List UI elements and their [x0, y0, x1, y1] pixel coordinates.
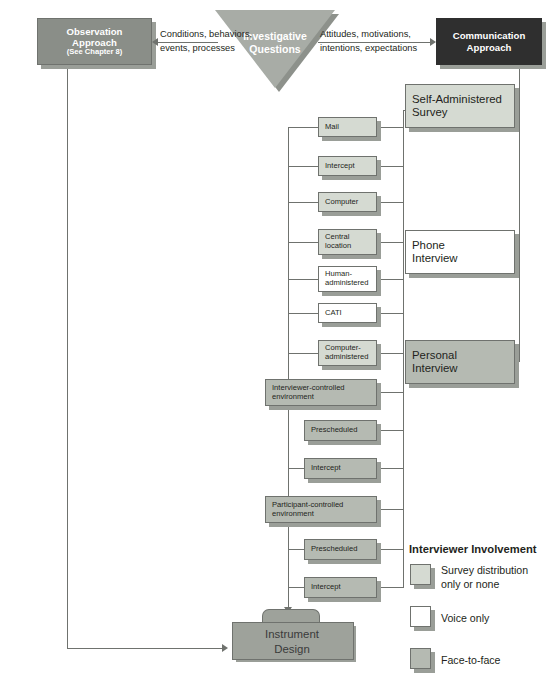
communication-approach-box[interactable]: Communication Approach	[436, 18, 542, 65]
legend-label-line1: Voice only	[441, 612, 489, 624]
communication-approach-line2: Approach	[431, 42, 547, 53]
method-box-cati[interactable]: CATI	[318, 303, 377, 323]
bus-personal-interview	[403, 352, 404, 588]
method-connector-left	[288, 242, 318, 243]
legend: Interviewer Involvement Survey distribut…	[409, 543, 554, 673]
observation-approach-box[interactable]: Observation Approach (See Chapter 8)	[37, 18, 152, 65]
method-label: Intercept	[305, 464, 376, 473]
method-label: Participant-controlled environment	[266, 501, 376, 518]
legend-label-survey-distribution: Survey distribution only or none	[441, 563, 551, 592]
observation-approach-line1: Observation	[32, 26, 157, 37]
method-box-intercept-3[interactable]: Intercept	[304, 577, 377, 598]
category-line2: Survey	[406, 106, 526, 119]
legend-label-face-to-face: Face-to-face	[441, 653, 551, 667]
right-edge-label-line1: Attitudes, motivations,	[320, 29, 411, 39]
method-label: Mail	[319, 123, 376, 132]
legend-label-line2: only or none	[441, 578, 499, 590]
communication-approach-line1: Communication	[431, 30, 547, 41]
category-box-phone-interview[interactable]: Phone Interview	[405, 230, 515, 274]
legend-label-line1: Survey distribution	[441, 564, 528, 576]
legend-swatch-survey-distribution	[410, 564, 431, 585]
method-connector-left	[288, 353, 318, 354]
method-label: Human-administered	[319, 270, 376, 287]
method-connector-left	[288, 468, 304, 469]
category-line2: Interview	[406, 362, 526, 375]
right-edge-label-line2: intentions, expectations	[320, 43, 417, 53]
method-box-mail[interactable]: Mail	[318, 117, 377, 137]
method-box-computer[interactable]: Computer	[318, 192, 377, 212]
method-connector-left	[288, 279, 318, 280]
method-box-intercept-2[interactable]: Intercept	[304, 458, 377, 479]
legend-swatch-face-to-face	[410, 648, 431, 669]
method-label: Intercept	[305, 583, 376, 592]
method-box-computer-administered[interactable]: Computer-administered	[318, 340, 377, 366]
observation-approach-line3: (See Chapter 8)	[32, 48, 157, 57]
legend-title: Interviewer Involvement	[409, 543, 536, 555]
method-connector-left	[288, 313, 318, 314]
method-box-intercept-1[interactable]: Intercept	[318, 156, 377, 176]
method-box-participant-controlled[interactable]: Participant-controlled environment	[265, 496, 377, 523]
method-box-human-administered[interactable]: Human-administered	[318, 266, 377, 292]
method-label: Central location	[319, 233, 376, 250]
method-connector-left	[288, 202, 318, 203]
method-label: Interviewer-controlled environment	[266, 384, 376, 401]
method-connector-left	[288, 166, 318, 167]
method-label: Computer	[319, 198, 376, 207]
method-box-prescheduled-2[interactable]: Prescheduled	[304, 539, 377, 560]
method-box-prescheduled-1[interactable]: Prescheduled	[304, 420, 377, 441]
legend-swatch-voice-only	[410, 606, 431, 627]
method-connector-left	[288, 127, 318, 128]
bus-phone-interview	[403, 242, 404, 364]
category-box-self-administered-survey[interactable]: Self-Administered Survey	[405, 84, 515, 128]
method-label: Computer-administered	[319, 344, 376, 361]
right-edge-label: Attitudes, motivations, intentions, expe…	[320, 27, 445, 56]
category-line2: Interview	[406, 252, 526, 265]
method-label: CATI	[319, 309, 376, 318]
method-connector-left	[288, 549, 304, 550]
method-connector-left	[288, 587, 304, 588]
category-box-personal-interview[interactable]: Personal Interview	[405, 340, 515, 384]
instrument-design-line1: Instrument	[265, 628, 319, 640]
method-box-central-location[interactable]: Central location	[318, 229, 377, 255]
instrument-design-line2: Design	[274, 643, 309, 655]
left-edge-label: Conditions, behaviors, events, processes	[160, 27, 275, 56]
flowchart-canvas: Observation Approach (See Chapter 8) Inv…	[0, 0, 556, 684]
category-line1: Phone	[406, 239, 526, 252]
left-edge-label-line1: Conditions, behaviors,	[160, 29, 252, 39]
method-trunk-vertical	[288, 128, 289, 611]
category-line1: Self-Administered	[406, 93, 526, 106]
method-label: Intercept	[319, 162, 376, 171]
legend-label-voice-only: Voice only	[441, 611, 551, 625]
observation-to-instrument-arrowhead	[222, 644, 228, 652]
observation-to-instrument-horizontal	[67, 648, 222, 649]
bus-self-administered	[403, 110, 404, 243]
method-label: Prescheduled	[305, 426, 376, 435]
method-box-interviewer-controlled[interactable]: Interviewer-controlled environment	[265, 379, 377, 406]
left-edge-label-line2: events, processes	[160, 43, 235, 53]
legend-label-line1: Face-to-face	[441, 654, 500, 666]
instrument-design-label: Instrument Design	[232, 627, 352, 657]
instrument-design-node[interactable]: Instrument Design	[232, 609, 352, 662]
category-line1: Personal	[406, 349, 526, 362]
method-label: Prescheduled	[305, 545, 376, 554]
observation-to-instrument-vertical	[67, 65, 68, 649]
